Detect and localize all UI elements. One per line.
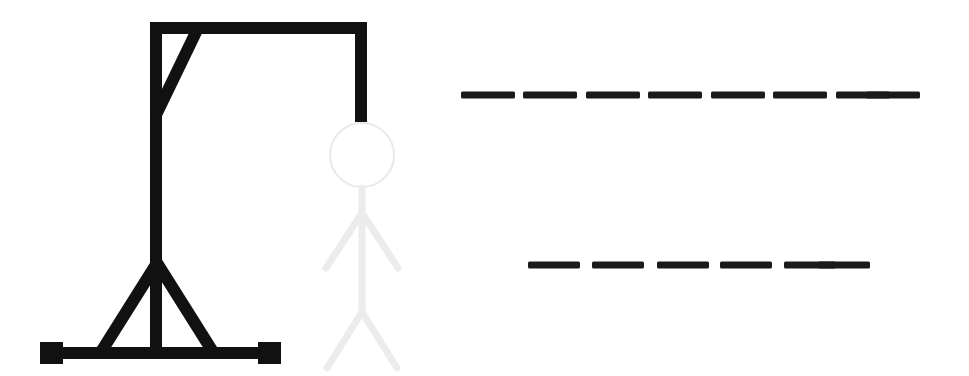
letter-blank-1-8[interactable]	[866, 92, 920, 99]
top-beam	[150, 22, 367, 34]
hangman-scene: ,,,,,,, ,,,,,	[0, 0, 969, 376]
letter-blank-2-1[interactable]	[528, 262, 580, 269]
vertical-post	[150, 22, 162, 352]
letter-blank-2-2[interactable]	[592, 262, 644, 269]
left-foot-block	[40, 342, 63, 364]
hangman-drawing	[0, 0, 969, 376]
letter-blank-1-2[interactable]	[523, 92, 577, 99]
letter-blank-1-5[interactable]	[711, 92, 765, 99]
letter-blank-1-1[interactable]	[461, 92, 515, 99]
scene-background	[0, 0, 969, 376]
letter-blank-2-4[interactable]	[720, 262, 772, 269]
rope	[355, 22, 367, 122]
letter-blank-1-3[interactable]	[586, 92, 640, 99]
letter-blank-2-3[interactable]	[657, 262, 709, 269]
letter-blank-1-6[interactable]	[773, 92, 827, 99]
letter-blank-2-6[interactable]	[818, 262, 870, 269]
letter-blank-1-4[interactable]	[648, 92, 702, 99]
right-foot-block	[258, 342, 281, 364]
